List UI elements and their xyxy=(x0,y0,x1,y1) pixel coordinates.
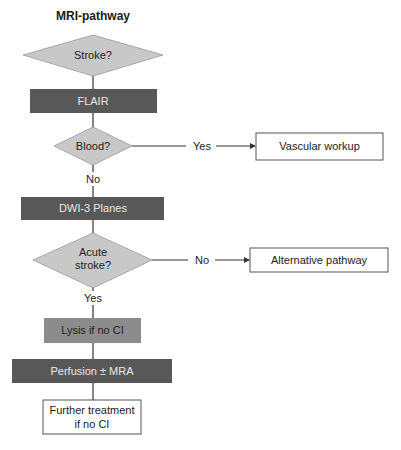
lysis-step: Lysis if no CI xyxy=(44,318,141,343)
acute-yes-label: Yes xyxy=(84,292,102,304)
further-treatment-box: Further treatment if no CI xyxy=(43,400,141,434)
flair-step: FLAIR xyxy=(30,89,157,113)
vascular-workup-label: Vascular workup xyxy=(279,140,360,152)
diagram-title: MRI-pathway xyxy=(56,9,130,23)
perfusion-step: Perfusion ± MRA xyxy=(12,359,172,383)
dwi-step-label: DWI-3 Planes xyxy=(59,202,127,214)
further-treatment-line2: if no CI xyxy=(75,418,110,430)
flair-step-label: FLAIR xyxy=(77,95,108,107)
stroke-decision-label: Stroke? xyxy=(74,49,112,61)
vascular-workup-box: Vascular workup xyxy=(256,133,383,160)
blood-decision: Blood? xyxy=(54,127,132,165)
further-treatment-line1: Further treatment xyxy=(50,404,135,416)
dwi-step: DWI-3 Planes xyxy=(21,197,164,220)
alternative-pathway-label: Alternative pathway xyxy=(271,254,367,266)
stroke-decision: Stroke? xyxy=(23,35,163,76)
lysis-step-label: Lysis if no CI xyxy=(61,324,124,336)
blood-yes-label: Yes xyxy=(193,140,211,152)
mri-pathway-flowchart: MRI-pathway Stroke? FLAIR Blood? Yes Vas… xyxy=(0,0,401,450)
alternative-pathway-box: Alternative pathway xyxy=(250,248,388,272)
acute-stroke-line2: stroke? xyxy=(75,259,111,271)
blood-no-label: No xyxy=(86,173,100,185)
perfusion-step-label: Perfusion ± MRA xyxy=(50,365,134,377)
blood-decision-label: Blood? xyxy=(76,140,110,152)
acute-stroke-decision: Acute stroke? xyxy=(33,233,152,288)
acute-stroke-line1: Acute xyxy=(79,246,107,258)
acute-no-label: No xyxy=(195,254,209,266)
